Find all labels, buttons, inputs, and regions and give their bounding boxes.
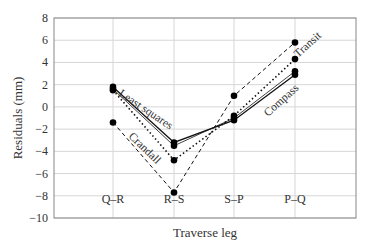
label-least-squares: Least squares (116, 87, 175, 133)
x-tick-label: S–P (224, 192, 244, 206)
data-point (110, 119, 117, 126)
x-tick-label: P–Q (284, 192, 306, 206)
x-axis-ticks: Q–RR–SS–PP–Q (102, 192, 306, 206)
label-compass: Compass (261, 81, 301, 119)
y-tick-label: 8 (42, 11, 48, 25)
x-tick-label: Q–R (102, 192, 125, 206)
y-tick-label: 0 (42, 100, 48, 114)
residuals-chart: 86420−2−4−6−8−10 Q–RR–SS–PP–Q Traverse l… (0, 0, 374, 244)
y-tick-label: 2 (42, 78, 48, 92)
data-point (292, 68, 299, 75)
y-tick-label: −2 (35, 122, 48, 136)
data-point (231, 92, 238, 99)
data-point (110, 87, 117, 94)
label-crandall: Crandall (127, 130, 164, 166)
data-point (231, 112, 238, 119)
y-tick-label: −10 (29, 211, 48, 225)
y-tick-label: −8 (35, 189, 48, 203)
y-tick-label: −6 (35, 167, 48, 181)
y-tick-label: 4 (42, 55, 48, 69)
x-axis-label: Traverse leg (173, 225, 238, 240)
y-tick-label: −4 (35, 144, 48, 158)
data-point (171, 189, 178, 196)
y-tick-label: 6 (42, 33, 48, 47)
y-axis-label: Residuals (mm) (10, 77, 25, 160)
data-point (171, 142, 178, 149)
y-axis-ticks: 86420−2−4−6−8−10 (29, 11, 48, 225)
data-point (171, 157, 178, 164)
